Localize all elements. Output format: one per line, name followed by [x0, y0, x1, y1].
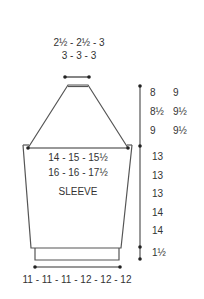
cuff-width: 11 - 11 - 11 - 12 - 12 - 12 [0, 274, 154, 286]
cap-height-col2-row1: 9 [173, 87, 179, 99]
sleeve-length-1: 13 [152, 151, 163, 163]
upper-arm-width-line1: 14 - 15 - 15½ [30, 152, 126, 164]
sleeve-length-3: 13 [152, 188, 163, 200]
cap-height-col1-row1: 8 [150, 87, 156, 99]
cuff-height: 1½ [152, 247, 166, 259]
sleeve-length-5: 14 [152, 225, 163, 237]
cap-height-col2-row2: 9½ [173, 106, 187, 118]
sleeve-title: SLEEVE [30, 186, 126, 198]
cap-height-col1-row3: 9 [150, 125, 156, 137]
upper-arm-width-line2: 16 - 16 - 17½ [30, 167, 126, 179]
cap-top-width-line1: 2½ - 2½ - 3 [34, 37, 124, 49]
cuff-width-dimension [33, 265, 122, 269]
cap-height-col1-row2: 8½ [150, 106, 164, 118]
cap-height-col2-row3: 9½ [173, 125, 187, 137]
sleeve-length-4: 14 [152, 207, 163, 219]
sleeve-length-2: 13 [152, 170, 163, 182]
cap-top-width-line2: 3 - 3 - 3 [34, 50, 124, 62]
cap-top-dimension [63, 75, 91, 79]
length-dimension [138, 84, 142, 261]
upper-arm-dimension [26, 146, 130, 150]
